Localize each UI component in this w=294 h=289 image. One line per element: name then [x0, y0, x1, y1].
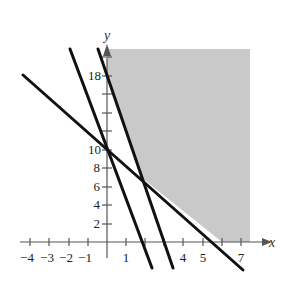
x-tick-label: −1	[78, 250, 92, 265]
y-tick-label: 4	[94, 197, 101, 212]
x-tick-label: 7	[238, 250, 245, 265]
x-tick-label: 5	[200, 250, 207, 265]
y-tick-label: 18	[88, 68, 101, 83]
x-axis-label: x	[268, 235, 276, 250]
x-tick-label: 1	[123, 250, 130, 265]
y-tick-label: 2	[94, 216, 101, 231]
y-tick-label: 10	[88, 142, 101, 157]
chart-canvas: y x −4 −3 −2 −1 1 4 5 7 2 4 6 8 10 18	[0, 0, 294, 289]
y-tick-labels: 2 4 6 8 10 18	[88, 68, 101, 231]
x-tick-label: −3	[40, 250, 54, 265]
y-tick-label: 8	[94, 160, 101, 175]
y-tick-label: 6	[94, 179, 101, 194]
x-tick-labels: −4 −3 −2 −1 1 4 5 7	[20, 250, 245, 265]
x-tick-label: −2	[59, 250, 73, 265]
x-tick-label: −4	[20, 250, 34, 265]
x-tick-label: 4	[180, 250, 187, 265]
y-axis-label: y	[102, 28, 111, 43]
